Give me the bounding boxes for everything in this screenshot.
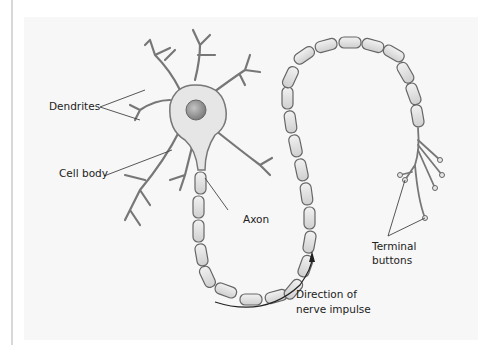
terminal-branches — [400, 128, 442, 218]
label-cell-body: Cell body — [59, 167, 108, 179]
label-terminal-buttons-1: Terminal — [371, 240, 416, 252]
label-direction-2: nerve impulse — [296, 303, 371, 315]
label-terminal-buttons-2: buttons — [372, 254, 412, 266]
label-dendrites: Dendrites — [49, 100, 100, 112]
label-axon: Axon — [243, 213, 269, 225]
terminal-buttons — [398, 158, 445, 221]
neuron-diagram: Dendrites Cell body Axon Terminal button… — [0, 0, 504, 353]
cell-body — [170, 85, 226, 170]
nucleus — [186, 100, 206, 120]
label-direction-1: Direction of — [296, 288, 357, 300]
